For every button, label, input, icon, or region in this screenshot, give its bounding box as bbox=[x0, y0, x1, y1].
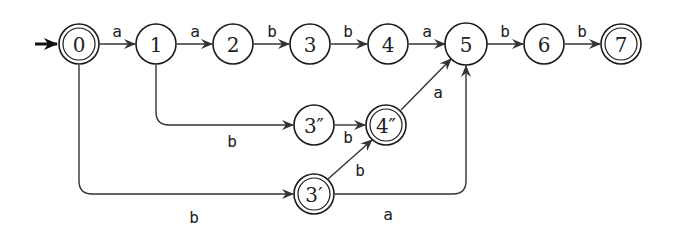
svg-text:3′: 3′ bbox=[305, 183, 323, 207]
edge-1-3pp: b bbox=[156, 65, 293, 151]
svg-text:4″: 4″ bbox=[376, 114, 396, 138]
svg-text:7: 7 bbox=[615, 33, 628, 57]
edge-5-6: b bbox=[487, 22, 523, 44]
state-3p: 3′ bbox=[294, 174, 334, 214]
svg-text:b: b bbox=[343, 22, 353, 41]
state-5: 5 bbox=[445, 23, 487, 65]
svg-text:0: 0 bbox=[73, 33, 86, 57]
svg-text:a: a bbox=[422, 22, 432, 41]
svg-text:b: b bbox=[500, 22, 510, 41]
edge-3pp-4pp: b bbox=[335, 125, 365, 147]
state-6: 6 bbox=[524, 24, 564, 64]
state-7: 7 bbox=[601, 24, 641, 64]
edge-0-1: a bbox=[100, 22, 135, 44]
svg-text:6: 6 bbox=[538, 33, 551, 57]
svg-text:b: b bbox=[577, 22, 587, 41]
state-4: 4 bbox=[368, 24, 408, 64]
state-1: 1 bbox=[136, 24, 176, 64]
svg-text:2: 2 bbox=[227, 33, 240, 57]
svg-text:3″: 3″ bbox=[304, 114, 324, 138]
svg-text:4: 4 bbox=[382, 33, 395, 57]
state-0: 0 bbox=[59, 24, 99, 64]
edge-4-5: a bbox=[409, 22, 445, 44]
svg-text:b: b bbox=[343, 128, 353, 147]
svg-text:a: a bbox=[433, 83, 443, 102]
edge-0-3p: b bbox=[79, 65, 293, 227]
edge-3-4: b bbox=[331, 22, 367, 44]
edge-6-7: b bbox=[565, 22, 600, 44]
edge-2-3: b bbox=[254, 22, 289, 44]
svg-text:b: b bbox=[355, 161, 365, 180]
svg-text:1: 1 bbox=[150, 33, 163, 57]
edge-3p-5: a bbox=[335, 66, 466, 224]
state-3: 3 bbox=[290, 24, 330, 64]
state-4pp: 4″ bbox=[366, 105, 406, 145]
state-2: 2 bbox=[213, 24, 253, 64]
edge-1-2: a bbox=[177, 22, 212, 44]
automaton-diagram: a a b b a b b b b a b bbox=[0, 0, 677, 238]
svg-text:a: a bbox=[383, 205, 393, 224]
svg-text:a: a bbox=[112, 22, 122, 41]
svg-text:b: b bbox=[227, 132, 237, 151]
svg-text:3: 3 bbox=[304, 33, 317, 57]
edge-4pp-5: a bbox=[401, 59, 451, 110]
svg-text:5: 5 bbox=[460, 33, 473, 57]
state-3pp: 3″ bbox=[294, 105, 334, 145]
svg-text:a: a bbox=[190, 22, 200, 41]
svg-text:b: b bbox=[189, 208, 199, 227]
svg-text:b: b bbox=[267, 22, 277, 41]
